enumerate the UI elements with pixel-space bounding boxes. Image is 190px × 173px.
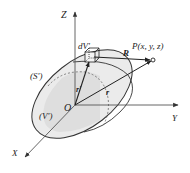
surface-label: (S')	[30, 71, 42, 81]
y-axis-label: Y	[172, 113, 178, 123]
r-prime-label: r'	[76, 85, 82, 94]
R-label: R	[122, 48, 129, 58]
point-p-label: P(x, y, z)	[131, 41, 164, 51]
volume-label: (V')	[39, 111, 52, 121]
origin-label: O	[64, 102, 71, 113]
volume-element-label: dV'	[78, 41, 91, 51]
point-p	[151, 58, 155, 62]
x-axis-label: X	[11, 148, 18, 158]
diagram-canvas: Z Y X O (S') (V') dV' r' r R P(x, y, z)	[0, 0, 190, 173]
z-axis-label: Z	[61, 9, 67, 20]
